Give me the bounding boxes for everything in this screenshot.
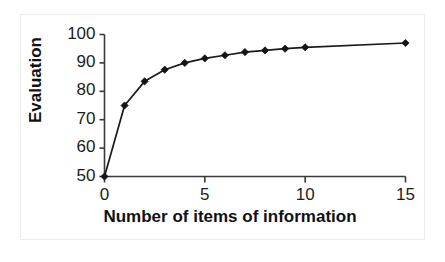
y-tick-label: 100 bbox=[56, 24, 96, 44]
y-axis-title: Evaluation bbox=[26, 20, 46, 140]
y-tick-label: 70 bbox=[56, 109, 96, 129]
y-tick-label: 80 bbox=[56, 80, 96, 100]
y-tick-label: 60 bbox=[56, 137, 96, 157]
x-axis-title: Number of items of information bbox=[60, 207, 400, 227]
x-tick-label: 10 bbox=[285, 185, 325, 205]
x-tick-label: 5 bbox=[185, 185, 225, 205]
x-tick-label: 15 bbox=[386, 185, 426, 205]
chart-figure: Evaluation Number of items of informatio… bbox=[0, 0, 445, 262]
y-tick-label: 90 bbox=[56, 52, 96, 72]
x-tick-label: 0 bbox=[85, 185, 125, 205]
y-tick-label: 50 bbox=[56, 166, 96, 186]
